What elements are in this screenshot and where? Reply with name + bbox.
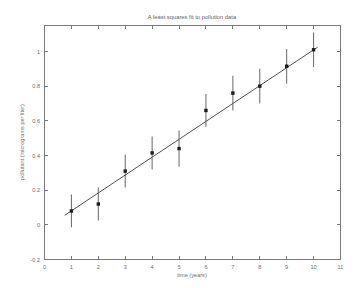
y-tick-label: 1: [37, 49, 40, 55]
x-tick-label: 2: [97, 264, 100, 270]
data-point-marker: [231, 91, 234, 94]
x-tick-label: 6: [204, 264, 207, 270]
data-point-marker: [150, 151, 153, 154]
x-tick-label: 3: [124, 264, 127, 270]
data-point-marker: [177, 147, 180, 150]
y-tick-label: 0.4: [32, 153, 40, 159]
x-tick-label: 7: [231, 264, 234, 270]
data-point-marker: [97, 202, 100, 205]
data-point-marker: [70, 209, 73, 212]
y-tick-label: 0.6: [32, 118, 40, 124]
x-tick-label: 0: [43, 264, 46, 270]
x-tick-label: 8: [258, 264, 261, 270]
x-axis-label: time (years): [177, 272, 207, 278]
y-tick-label: -0.2: [30, 257, 40, 263]
data-point-marker: [258, 84, 261, 87]
y-tick-label: 0: [37, 222, 40, 228]
x-tick-label: 11: [338, 264, 344, 270]
data-point-marker: [285, 65, 288, 68]
x-tick-label: 10: [310, 264, 316, 270]
data-point-marker: [124, 169, 127, 172]
y-axis-label: pollutant (micrograms per liter): [19, 104, 25, 180]
pollution-scatter-chart: A least squares fit to pollution data 01…: [0, 0, 357, 288]
x-tick-label: 1: [70, 264, 73, 270]
y-tick-label: 0.2: [32, 187, 40, 193]
figure-canvas: A least squares fit to pollution data 01…: [0, 0, 357, 288]
chart-background: [0, 0, 357, 288]
data-point-marker: [204, 109, 207, 112]
y-tick-label: 0.8: [32, 83, 40, 89]
x-tick-label: 9: [285, 264, 288, 270]
chart-title: A least squares fit to pollution data: [148, 14, 237, 20]
x-tick-label: 5: [177, 264, 180, 270]
x-tick-label: 4: [151, 264, 154, 270]
data-point-marker: [312, 48, 315, 51]
